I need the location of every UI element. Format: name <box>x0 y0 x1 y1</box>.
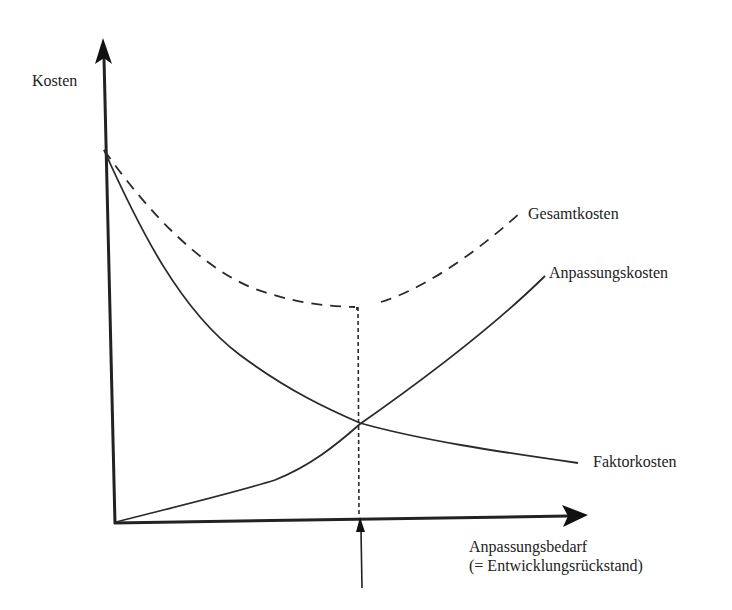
total-cost-label: Gesamtkosten <box>528 205 619 223</box>
x-axis <box>114 505 588 527</box>
cost-diagram <box>0 0 732 610</box>
adjustment-cost-label: Anpassungskosten <box>549 264 668 282</box>
x-axis-label-line1: Anpassungsbedarf <box>469 538 587 556</box>
minimum-marker <box>357 307 359 517</box>
y-axis-label: Kosten <box>32 72 77 90</box>
adjustment-cost-curve <box>116 276 545 522</box>
x-axis-label-line2: (= Entwicklungsrückstand) <box>469 557 643 575</box>
factor-cost-label: Faktorkosten <box>593 453 677 471</box>
y-axis <box>95 38 115 524</box>
optimum-arrow <box>356 517 365 588</box>
total-cost-curve-right <box>381 213 520 302</box>
